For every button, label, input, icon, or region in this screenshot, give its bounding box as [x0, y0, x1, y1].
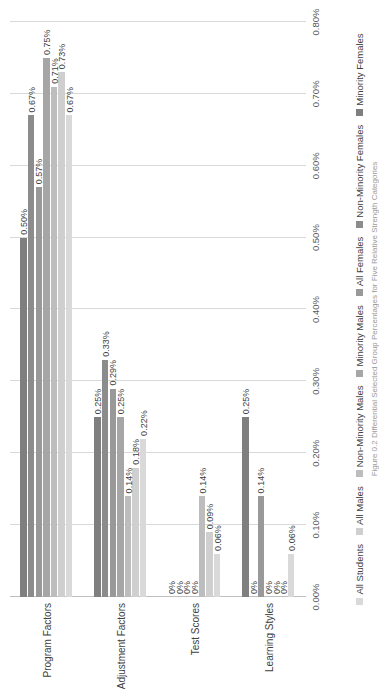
- bar-value-label: 0.14%: [198, 468, 208, 494]
- bar-value-label: 0%: [249, 581, 259, 594]
- category-label: Learning Styles: [264, 603, 275, 672]
- bar: [20, 238, 26, 597]
- legend-item[interactable]: All Males: [354, 486, 365, 535]
- bar: [66, 115, 72, 597]
- bar: [206, 532, 212, 597]
- legend-item[interactable]: All Females: [354, 237, 365, 297]
- bar-value-label: 0.71%: [50, 58, 60, 84]
- bar-value-label: 0.25%: [93, 389, 103, 415]
- bar: [117, 417, 123, 597]
- legend-swatch-icon: [356, 109, 363, 116]
- bar-value-label: 0.50%: [19, 209, 29, 235]
- axis-tick-label: 0.30%: [310, 368, 321, 395]
- bar-value-label: 0.25%: [116, 389, 126, 415]
- legend-label: Non-Minority Females: [354, 125, 365, 218]
- axis-tick-label: 0.60%: [310, 152, 321, 179]
- axis-tick-label: 0.80%: [310, 9, 321, 36]
- bar-value-label: 0.18%: [131, 439, 141, 465]
- plot-region: 0.67%0.73%0.71%0.75%0.57%0.67%0.50%0.22%…: [10, 22, 306, 597]
- bar: [110, 389, 116, 597]
- bar: [43, 58, 49, 597]
- bar-value-label: 0.29%: [108, 360, 118, 386]
- legend-swatch-icon: [356, 289, 363, 296]
- legend-label: Non-Minority Males: [354, 386, 365, 468]
- legend-label: All Students: [354, 544, 365, 595]
- category-label: Test Scores: [190, 603, 201, 655]
- bar: [214, 554, 220, 597]
- bar-value-label: 0.67%: [27, 87, 37, 113]
- bar: [36, 187, 42, 597]
- bar-value-label: 0%: [264, 581, 274, 594]
- category-axis-labels: Program FactorsAdjustment FactorsTest Sc…: [10, 599, 306, 659]
- axis-tick-label: 0.20%: [310, 440, 321, 467]
- legend-item[interactable]: All Students: [354, 544, 365, 605]
- bar-value-label: 0.57%: [34, 159, 44, 185]
- legend-swatch-icon: [356, 221, 363, 228]
- legend-item[interactable]: Non-Minority Females: [354, 125, 365, 228]
- axis-tick-label: 0.40%: [310, 296, 321, 323]
- bar: [125, 496, 131, 597]
- bar-value-label: 0.22%: [139, 410, 149, 436]
- legend-label: All Males: [354, 486, 365, 525]
- bar-value-label: 0.75%: [42, 29, 52, 55]
- legend-label: All Females: [354, 237, 365, 287]
- bar-value-label: 0.09%: [205, 504, 215, 530]
- bar: [94, 417, 100, 597]
- legend-swatch-icon: [356, 598, 363, 605]
- figure-caption: Figure 0.2 Differential Selected Group P…: [370, 19, 379, 619]
- legend-item[interactable]: Minority Females: [354, 33, 365, 115]
- bar-value-label: 0.14%: [256, 468, 266, 494]
- legend-label: Minority Males: [354, 305, 365, 366]
- category-label: Program Factors: [42, 603, 53, 677]
- legend-item[interactable]: Minority Males: [354, 305, 365, 376]
- legend-swatch-icon: [356, 370, 363, 377]
- axis-tick-label: 0.70%: [310, 80, 321, 107]
- bar-value-label: 0.67%: [65, 87, 75, 113]
- axis-tick-label: 0.00%: [310, 584, 321, 611]
- bar: [28, 115, 34, 597]
- legend-swatch-icon: [356, 528, 363, 535]
- axis-tick-label: 0.10%: [310, 512, 321, 539]
- bar: [51, 87, 57, 597]
- bar: [58, 72, 64, 597]
- axis-tick-label: 0.50%: [310, 224, 321, 251]
- category-label: Adjustment Factors: [116, 603, 127, 689]
- bar-value-label: 0.06%: [287, 525, 297, 551]
- bar-value-label: 0.14%: [124, 468, 134, 494]
- legend-item[interactable]: Non-Minority Males: [354, 386, 365, 478]
- legend-swatch-icon: [356, 470, 363, 477]
- bar: [242, 417, 248, 597]
- chart-legend: All StudentsAll MalesNon-Minority MalesM…: [348, 19, 370, 619]
- value-axis-tick-labels: 0.00%0.10%0.20%0.30%0.40%0.50%0.60%0.70%…: [310, 22, 330, 597]
- gridline: [10, 21, 306, 22]
- legend-label: Minority Females: [354, 33, 365, 105]
- bar-value-label: 0%: [167, 581, 177, 594]
- bar-value-label: 0.25%: [241, 389, 251, 415]
- bar-value-label: 0.33%: [101, 331, 111, 357]
